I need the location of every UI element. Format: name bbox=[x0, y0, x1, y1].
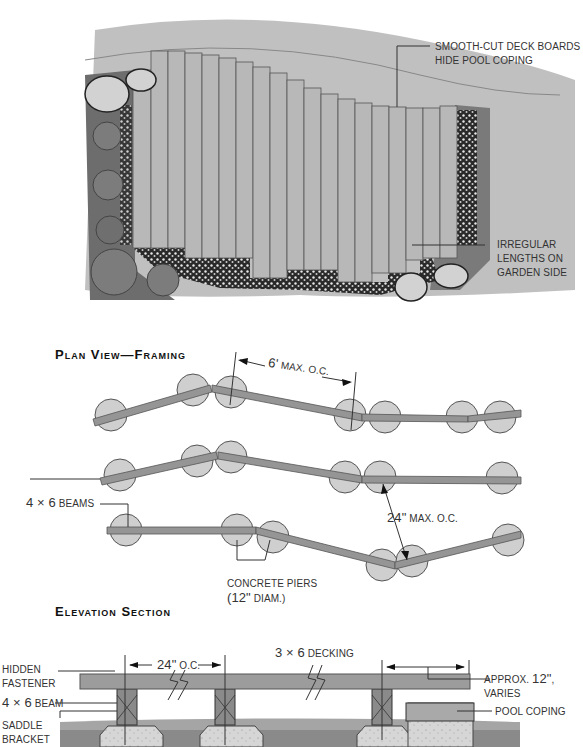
pier-diameter-value: (12" bbox=[227, 590, 251, 605]
beam-spacing-text: MAX. O.C. bbox=[409, 513, 458, 524]
beam-elevation-size: 4 × 6 bbox=[2, 695, 32, 710]
overhang-value: 12" bbox=[532, 671, 551, 686]
pier-spacing-value: 6' bbox=[267, 355, 279, 371]
callout-smooth-cut: SMOOTH-CUT DECK BOARDS HIDE POOL COPING bbox=[435, 40, 580, 68]
elevation-section bbox=[55, 655, 520, 747]
callout-irregular-line1: IRREGULAR bbox=[497, 238, 567, 252]
saddle-bracket-line2: BRACKET bbox=[2, 733, 50, 747]
beam-oc-text: O.C. bbox=[179, 660, 200, 671]
plan-view-heading: Plan View—Framing bbox=[55, 347, 186, 362]
overhang-pre: APPROX. bbox=[484, 674, 529, 685]
pier-diameter-text: DIAM.) bbox=[254, 593, 286, 604]
decking-label: 3 × 6 DECKING bbox=[275, 646, 354, 661]
hidden-fastener-label: HIDDEN FASTENER bbox=[2, 663, 56, 691]
beam-spacing-value: 24" bbox=[387, 510, 406, 525]
concrete-piers-label: CONCRETE PIERS (12" DIAM.) bbox=[227, 577, 317, 606]
beam-spacing-label: 24" MAX. O.C. bbox=[387, 511, 458, 526]
beam-oc-value: 24" bbox=[157, 657, 176, 672]
pool-coping-label: POOL COPING bbox=[495, 705, 566, 719]
hidden-fastener-line1: HIDDEN bbox=[2, 663, 56, 677]
overhang-label: APPROX. 12", VARIES bbox=[484, 672, 583, 701]
saddle-bracket-label: SADDLE BRACKET bbox=[2, 719, 50, 747]
hidden-fastener-line2: FASTENER bbox=[2, 677, 56, 691]
beam-oc-label: 24" O.C. bbox=[157, 658, 200, 673]
concrete-piers-line1: CONCRETE PIERS bbox=[227, 577, 317, 591]
elevation-heading: Elevation Section bbox=[55, 604, 171, 619]
decking-text: DECKING bbox=[308, 648, 354, 659]
beam-elevation-label: 4 × 6 BEAM bbox=[2, 696, 63, 711]
callout-irregular-line2: LENGTHS ON bbox=[497, 252, 567, 266]
beam-elevation-text: BEAM bbox=[35, 698, 64, 709]
beams-text: BEAMS bbox=[59, 498, 95, 509]
callout-irregular-lengths: IRREGULAR LENGTHS ON GARDEN SIDE bbox=[497, 238, 567, 280]
callout-smooth-line1: SMOOTH-CUT DECK BOARDS bbox=[435, 40, 580, 54]
beams-label: 4 × 6 BEAMS bbox=[26, 496, 94, 511]
callout-irregular-line3: GARDEN SIDE bbox=[497, 266, 567, 280]
saddle-bracket-line1: SADDLE bbox=[2, 719, 50, 733]
beams-size: 4 × 6 bbox=[26, 495, 56, 510]
callout-smooth-line2: HIDE POOL COPING bbox=[435, 54, 580, 68]
framing-plan bbox=[30, 352, 524, 581]
decking-size: 3 × 6 bbox=[275, 645, 305, 660]
